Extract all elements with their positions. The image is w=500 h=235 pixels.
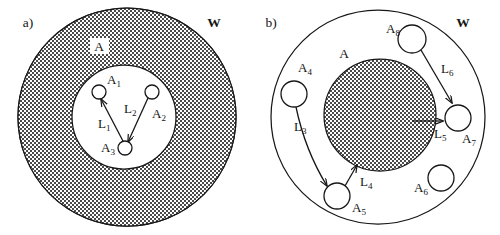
panel-b-universe-label: W: [456, 15, 470, 30]
panel-b-node-A6: [428, 165, 454, 191]
figure-container: a) W A A1 A2 A3 L1 L2: [0, 0, 500, 235]
panel-b-node-A7: [445, 105, 471, 131]
panel-b-node-A4: [281, 81, 307, 107]
panel-a-tag: a): [23, 15, 34, 30]
panel-a-node-A3: [118, 141, 132, 155]
panel-a-universe-label: W: [207, 15, 221, 30]
panel-b-shaded-disk: [324, 59, 436, 171]
panel-b-tag: b): [265, 15, 276, 30]
panel-a-node-A1: [92, 85, 106, 99]
panel-b-region-label: A: [339, 46, 349, 61]
panel-a-region-label: A: [94, 39, 104, 54]
panel-b-node-A5: [324, 183, 350, 209]
panel-b-node-A8: [398, 25, 426, 53]
panel-a-node-A2: [145, 85, 159, 99]
set-diagram-figure: a) W A A1 A2 A3 L1 L2: [0, 0, 500, 235]
